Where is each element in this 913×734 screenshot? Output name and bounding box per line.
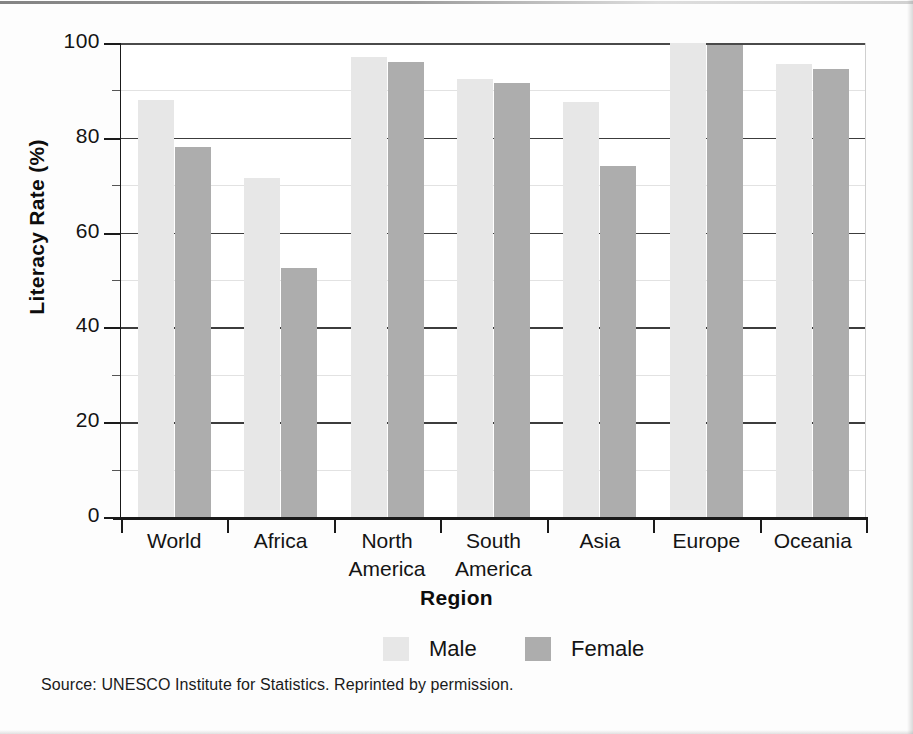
x-axis-category-line: Africa	[227, 527, 333, 555]
bar-oceania-male	[776, 64, 812, 517]
x-axis-category-asia: Asia	[547, 527, 653, 555]
bar-asia-female	[600, 166, 636, 517]
plot-right-rule	[865, 43, 866, 517]
y-axis-tick-label: 40	[38, 313, 100, 337]
bar-europe-male	[670, 43, 706, 517]
x-axis-category-line: Oceania	[760, 527, 866, 555]
x-axis-category-europe: Europe	[653, 527, 759, 555]
legend-swatch-male	[383, 637, 409, 661]
chart-page: Literacy Rate (%) 020406080100 WorldAfri…	[0, 0, 913, 734]
x-axis-category-line: South	[440, 527, 546, 555]
x-axis-category-world: World	[121, 527, 227, 555]
legend-label-male: Male	[429, 636, 477, 662]
bar-south-america-male	[457, 79, 493, 517]
bar-africa-female	[281, 268, 317, 517]
x-axis-category-north-america: NorthAmerica	[334, 527, 440, 583]
bar-north-america-female	[388, 62, 424, 517]
bar-europe-female	[707, 45, 743, 517]
x-axis-category-line: America	[440, 555, 546, 583]
bar-oceania-female	[813, 69, 849, 517]
y-axis-tick-label: 100	[38, 29, 100, 53]
legend-item-female[interactable]: Female	[525, 636, 644, 662]
x-axis-category-line: America	[334, 555, 440, 583]
plot-area	[121, 43, 866, 517]
x-axis-title: Region	[0, 586, 913, 610]
legend-swatch-female	[525, 637, 551, 661]
scan-right-edge	[907, 0, 913, 734]
x-axis-category-line: World	[121, 527, 227, 555]
x-axis-category-line: Europe	[653, 527, 759, 555]
y-axis-tick-label: 60	[38, 219, 100, 243]
x-axis-category-line: North	[334, 527, 440, 555]
legend-label-female: Female	[571, 636, 644, 662]
y-axis-tick-label: 80	[38, 124, 100, 148]
y-axis-tick-label: 20	[38, 408, 100, 432]
plot-top-rule	[121, 43, 866, 45]
source-note: Source: UNESCO Institute for Statistics.…	[41, 676, 513, 694]
x-axis-separator-tick	[866, 520, 868, 533]
y-axis-tick-labels: 020406080100	[32, 0, 100, 734]
bar-north-america-male	[351, 57, 387, 517]
bar-asia-male	[563, 102, 599, 517]
x-axis-category-oceania: Oceania	[760, 527, 866, 555]
scan-bottom-edge	[0, 730, 913, 734]
bar-world-female	[175, 147, 211, 517]
bar-africa-male	[244, 178, 280, 517]
x-axis-line	[113, 517, 868, 520]
x-axis-category-south-america: SouthAmerica	[440, 527, 546, 583]
bar-south-america-female	[494, 83, 530, 517]
x-axis-category-line: Asia	[547, 527, 653, 555]
legend-item-male[interactable]: Male	[383, 636, 477, 662]
y-axis-tick-label: 0	[38, 503, 100, 527]
bar-world-male	[138, 100, 174, 517]
scan-top-edge	[0, 1, 913, 4]
x-axis-category-africa: Africa	[227, 527, 333, 555]
